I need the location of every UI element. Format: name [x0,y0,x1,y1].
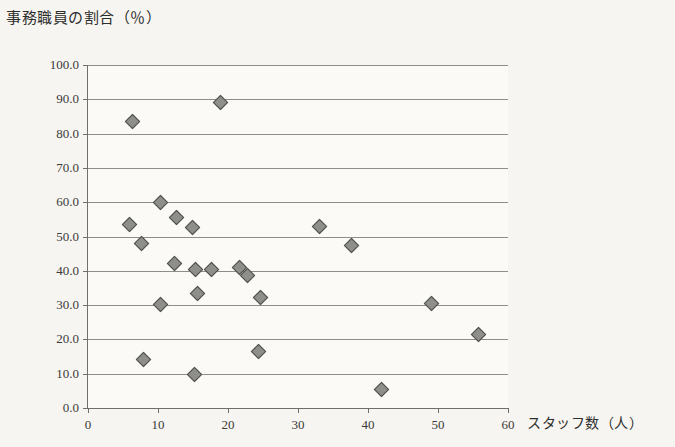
y-tick-label: 0.0 [63,400,79,416]
y-tick-mark [83,134,88,135]
x-tick-mark [158,408,159,413]
x-tick-label: 60 [502,417,515,433]
y-tick-label: 90.0 [56,91,79,107]
x-tick-label: 20 [222,417,235,433]
y-tick-label: 30.0 [56,297,79,313]
x-tick-label: 10 [152,417,165,433]
x-tick-label: 0 [85,417,92,433]
y-tick-label: 40.0 [56,263,79,279]
y-tick-mark [83,168,88,169]
x-tick-label: 40 [362,417,375,433]
y-tick-mark [83,339,88,340]
x-axis-label: スタッフ数（人） [527,412,643,432]
y-tick-label: 100.0 [50,57,79,73]
y-tick-label: 80.0 [56,126,79,142]
y-tick-label: 70.0 [56,160,79,176]
y-tick-mark [83,374,88,375]
gridline [88,65,508,66]
scatter-chart-figure: 事務職員の割合（％） 0.010.020.030.040.050.060.070… [0,0,675,447]
gridline [88,168,508,169]
x-tick-label: 50 [432,417,445,433]
gridline [88,271,508,272]
x-tick-label: 30 [292,417,305,433]
x-tick-mark [438,408,439,413]
y-tick-label: 50.0 [56,229,79,245]
y-tick-mark [83,237,88,238]
y-tick-label: 10.0 [56,366,79,382]
x-tick-mark [298,408,299,413]
gridline [88,374,508,375]
gridline [88,237,508,238]
y-tick-mark [83,65,88,66]
gridline [88,339,508,340]
gridline [88,202,508,203]
gridline [88,305,508,306]
y-tick-mark [83,99,88,100]
page-title: 事務職員の割合（％） [6,8,161,28]
gridline [88,134,508,135]
x-tick-mark [368,408,369,413]
y-tick-label: 60.0 [56,194,79,210]
y-tick-mark [83,202,88,203]
y-tick-label: 20.0 [56,331,79,347]
x-tick-mark [508,408,509,413]
y-tick-mark [83,305,88,306]
y-tick-mark [83,271,88,272]
x-tick-mark [228,408,229,413]
x-tick-mark [88,408,89,413]
plot-area: 0.010.020.030.040.050.060.070.080.090.01… [88,65,508,408]
gridline [88,99,508,100]
